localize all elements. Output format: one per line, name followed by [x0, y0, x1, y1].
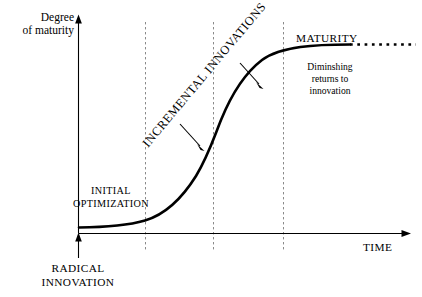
radical-innovation-label-line2: INNOVATION	[42, 276, 115, 288]
incremental-arrowhead-upper-icon	[256, 82, 264, 89]
y-axis-arrowhead-icon	[75, 15, 82, 24]
initial-optimization-label-line2: OPTIMIZATION	[73, 198, 149, 209]
s-curve-diagram: Degree of maturity TIME RADICAL INNOVATI…	[0, 0, 422, 297]
x-axis-arrowhead-icon	[402, 230, 412, 237]
initial-optimization-label-line1: INITIAL	[91, 185, 131, 196]
diminishing-returns-note-line1: Diminshing	[307, 61, 353, 72]
x-axis-label: TIME	[363, 241, 392, 253]
radical-innovation-label-line1: RADICAL	[51, 262, 104, 274]
y-axis-label-line2: of maturity	[23, 24, 75, 37]
incremental-innovations-label: INCREMENTAL INNOVATIONS	[140, 0, 269, 150]
diminishing-returns-note-line3: innovation	[309, 85, 350, 96]
diminishing-returns-note-line2: returns to	[312, 73, 349, 84]
incremental-arrowhead-lower-icon	[197, 144, 205, 151]
incremental-pointer-line-lower	[180, 124, 200, 146]
y-axis-label-line1: Degree	[41, 11, 74, 24]
maturity-label: MATURITY	[296, 32, 358, 44]
